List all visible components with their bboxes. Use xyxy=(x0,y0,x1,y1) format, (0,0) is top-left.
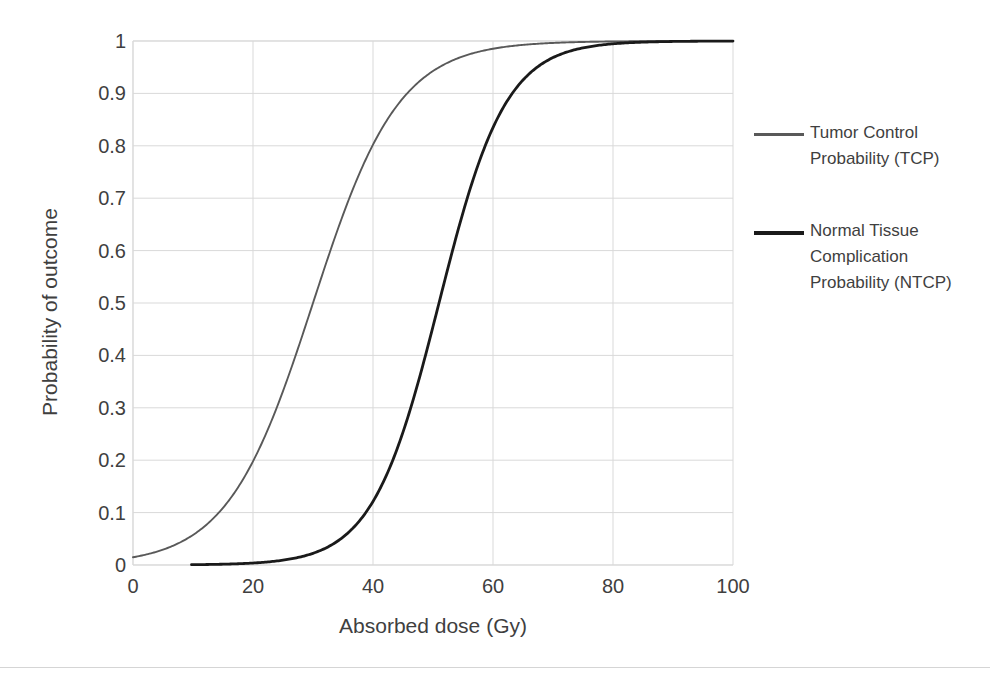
curve-tcp xyxy=(133,41,733,557)
y-axis-tick-label: 0.6 xyxy=(80,241,126,261)
x-axis-tick-label: 40 xyxy=(338,576,408,596)
y-axis-tick-label: 0.8 xyxy=(80,136,126,156)
legend-label: Tumor Control xyxy=(810,120,990,146)
x-axis-tick-label: 100 xyxy=(698,576,768,596)
chart-legend: Tumor ControlProbability (TCP)Normal Tis… xyxy=(752,120,990,342)
gridlines xyxy=(133,41,733,565)
x-axis-tick-label: 60 xyxy=(458,576,528,596)
legend-label: Normal Tissue xyxy=(810,218,990,244)
y-axis-title: Probability of outcome xyxy=(38,152,62,472)
bottom-divider xyxy=(0,667,990,668)
x-axis-tick-label: 0 xyxy=(98,576,168,596)
legend-item-tcp[interactable]: Tumor ControlProbability (TCP) xyxy=(752,120,990,172)
y-axis-tick-label: 0.9 xyxy=(80,83,126,103)
y-axis-tick-label: 0.5 xyxy=(80,293,126,313)
x-axis-tick-label: 20 xyxy=(218,576,288,596)
chart-figure: 10.90.80.70.60.50.40.30.20.10 0204060801… xyxy=(0,0,990,674)
legend-swatch-ntcp xyxy=(754,231,804,235)
legend-swatch-tcp xyxy=(754,133,804,136)
y-axis-tick-label: 1 xyxy=(80,31,126,51)
y-axis-tick-label: 0.2 xyxy=(80,450,126,470)
x-axis-tick-label: 80 xyxy=(578,576,648,596)
y-axis-tick-label: 0.4 xyxy=(80,345,126,365)
x-axis-title: Absorbed dose (Gy) xyxy=(133,614,733,638)
x-axis-tick-labels: 020406080100 xyxy=(0,572,990,596)
y-axis-tick-label: 0.1 xyxy=(80,503,126,523)
legend-label: Complication xyxy=(810,244,990,270)
legend-item-ntcp[interactable]: Normal TissueComplicationProbability (NT… xyxy=(752,218,990,296)
y-axis-tick-label: 0.7 xyxy=(80,188,126,208)
legend-label: Probability (NTCP) xyxy=(810,270,990,296)
y-axis-tick-label: 0.3 xyxy=(80,398,126,418)
legend-label: Probability (TCP) xyxy=(810,146,990,172)
